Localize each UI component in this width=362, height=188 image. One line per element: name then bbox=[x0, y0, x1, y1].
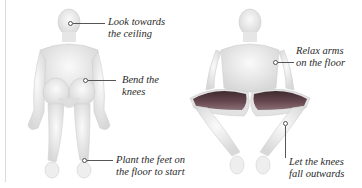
label-look-towards-ceiling: Look towards the ceiling bbox=[108, 16, 165, 40]
label-plant-feet: Plant the feet on the floor to start bbox=[116, 154, 185, 178]
left-figure bbox=[28, 9, 110, 178]
right-figure bbox=[190, 9, 310, 174]
leader-line-head bbox=[73, 23, 105, 24]
leader-line-arm bbox=[278, 62, 294, 63]
label-bend-the-knees: Bend the knees bbox=[122, 74, 159, 98]
label-relax-arms: Relax arms on the floor bbox=[296, 45, 345, 69]
leader-line-knee bbox=[88, 80, 116, 81]
leader-line-foot bbox=[87, 160, 113, 161]
label-let-knees-fall: Let the knees fall outwards bbox=[289, 156, 344, 180]
leader-line-knee-out bbox=[285, 126, 286, 158]
